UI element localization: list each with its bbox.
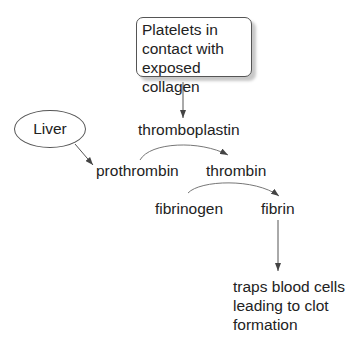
fibrinogen-label: fibrinogen (155, 200, 223, 218)
thrombin-label: thrombin (206, 162, 266, 180)
thromboplastin-label: thromboplastin (138, 121, 240, 139)
outcome-line-3: formation (233, 315, 350, 334)
arrow-prothrombin-to-thrombin (140, 145, 228, 160)
liver-oval: Liver (14, 110, 86, 148)
liver-label: Liver (33, 120, 67, 138)
outcome-line-1: traps blood cells (233, 277, 350, 296)
platelets-box: Platelets in contact with exposed collag… (136, 17, 252, 77)
platelets-line-3: exposed collagen (142, 58, 251, 96)
prothrombin-label: prothrombin (96, 162, 179, 180)
platelets-line-1: Platelets in (142, 20, 251, 39)
arrow-liver-to-prothrombin (75, 144, 93, 165)
outcome-text: traps blood cells leading to clot format… (233, 277, 350, 334)
arrow-fibrinogen-to-fibrin (188, 183, 279, 196)
platelets-line-2: contact with (142, 39, 251, 58)
fibrin-label: fibrin (261, 200, 295, 218)
outcome-line-2: leading to clot (233, 296, 350, 315)
